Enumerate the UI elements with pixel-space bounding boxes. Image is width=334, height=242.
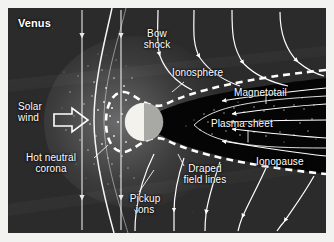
draped-line-l3b	[238, 218, 242, 231]
venus-magnetosphere-figure: Venus Solar wind Hot neutral corona Bow …	[0, 0, 334, 242]
draped-line-l2b	[205, 214, 206, 231]
draped-line-l4b	[277, 222, 284, 231]
draped-line-u3b	[244, 64, 288, 86]
draped-line-l4	[284, 176, 314, 222]
draped-line-l5b	[135, 214, 136, 231]
diagram-panel: Venus Solar wind Hot neutral corona Bow …	[8, 8, 326, 233]
diagram-canvas	[8, 8, 326, 233]
draped-line-u2	[194, 10, 200, 58]
